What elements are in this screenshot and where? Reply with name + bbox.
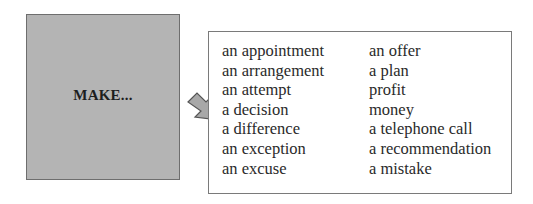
collocation-item: an excuse xyxy=(222,159,324,179)
collocation-item: an attempt xyxy=(222,80,324,100)
collocation-item: money xyxy=(369,100,491,120)
make-box: MAKE... xyxy=(26,14,180,180)
collocation-column-right: an offer a plan profit money a telephone… xyxy=(369,41,491,178)
collocation-item: a mistake xyxy=(369,159,491,179)
collocation-list-box: an appointment an arrangement an attempt… xyxy=(208,31,512,194)
collocation-item: profit xyxy=(369,80,491,100)
collocation-item: a difference xyxy=(222,119,324,139)
collocation-item: an arrangement xyxy=(222,61,324,81)
collocation-item: a decision xyxy=(222,100,324,120)
make-label: MAKE... xyxy=(27,87,179,104)
collocation-item: a telephone call xyxy=(369,119,491,139)
collocation-item: a recommendation xyxy=(369,139,491,159)
collocation-item: an exception xyxy=(222,139,324,159)
collocation-column-left: an appointment an arrangement an attempt… xyxy=(222,41,324,178)
collocation-item: a plan xyxy=(369,61,491,81)
collocation-item: an offer xyxy=(369,41,491,61)
collocation-item: an appointment xyxy=(222,41,324,61)
